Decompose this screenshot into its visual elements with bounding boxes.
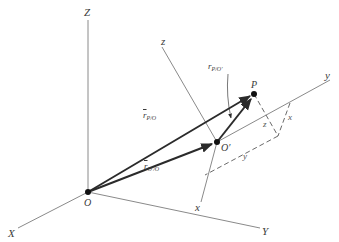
label-point-o-prime: O′ xyxy=(221,143,230,153)
local-x-axis xyxy=(201,142,217,202)
label-vector-r-p-o: rP/O xyxy=(143,111,156,121)
label-local-x: x xyxy=(195,202,200,213)
point-p xyxy=(251,91,257,97)
label-component-x: x xyxy=(288,113,292,122)
label-local-z: z xyxy=(161,36,165,47)
local-y-axis xyxy=(217,80,330,142)
point-o-prime xyxy=(214,139,220,145)
label-point-o: O xyxy=(84,198,91,208)
label-point-p: P xyxy=(251,80,257,90)
diagram-canvas: Z X Y z x y O O′ P rP/O rO′/O rP/O′ z x … xyxy=(0,0,339,242)
label-global-y: Y xyxy=(262,226,268,237)
vector-subscript: P/O′ xyxy=(212,66,223,72)
label-vector-r-oprime-o: rO′/O xyxy=(144,162,159,172)
label-vector-r-p-oprime: rP/O′ xyxy=(208,62,223,72)
dashed-p-to-foot xyxy=(254,94,278,136)
label-global-z: Z xyxy=(84,7,90,18)
label-component-z: z xyxy=(263,120,267,129)
label-global-x: X xyxy=(8,228,15,239)
vector-subscript: O′/O xyxy=(148,166,160,172)
global-x-axis xyxy=(18,192,88,228)
label-pointer-curve xyxy=(227,74,231,118)
label-local-y: y xyxy=(325,70,330,81)
point-o xyxy=(85,189,91,195)
vector-subscript: P/O xyxy=(147,115,157,121)
label-component-y: y xyxy=(243,152,247,161)
global-y-axis xyxy=(88,192,260,228)
